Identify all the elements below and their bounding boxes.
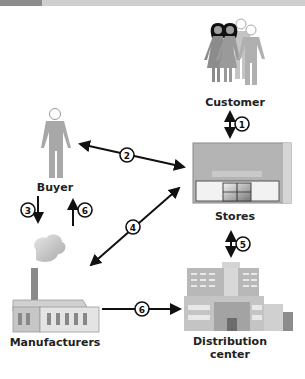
step-3-text: 3: [25, 206, 31, 216]
storefront-icon: [193, 143, 291, 203]
step-6a-text: 6: [82, 206, 88, 216]
distribution-label-line1: Distribution: [190, 335, 270, 348]
distribution-label-line2: center: [190, 348, 270, 361]
factory-icon: [13, 235, 99, 332]
buyer-label: Buyer: [25, 181, 85, 194]
distribution-center-label: Distribution center: [190, 335, 270, 361]
step-5-text: 5: [240, 240, 246, 250]
manufacturers-label: Manufacturers: [5, 336, 105, 349]
step-1-text: 1: [239, 120, 245, 130]
step-4-text: 4: [130, 223, 136, 233]
office-building-icon: [184, 262, 293, 331]
people-group-icon: [204, 19, 265, 85]
stores-label: Stores: [200, 210, 270, 223]
customer-label: Customer: [200, 96, 270, 109]
person-icon: [41, 109, 71, 179]
step-2-text: 2: [124, 151, 130, 161]
step-6b-text: 6: [139, 305, 145, 315]
